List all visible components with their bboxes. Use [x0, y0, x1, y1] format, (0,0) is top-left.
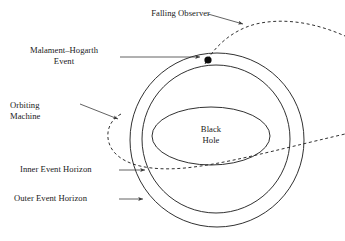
- leader-orbiting-machine: [80, 104, 118, 119]
- leader-falling-observer: [208, 14, 243, 24]
- black-hole-diagram: Falling Observer Malament–Hogarth Event …: [0, 0, 345, 241]
- label-malament-hogarth-event: Malament–Hogarth Event: [12, 45, 116, 67]
- label-outer-event-horizon: Outer Event Horizon: [14, 193, 118, 204]
- label-falling-observer: Falling Observer: [124, 8, 210, 19]
- label-black-hole: Black Hole: [181, 124, 241, 146]
- label-orbiting-machine: Orbiting Machine: [10, 100, 80, 122]
- malament-hogarth-event-dot: [204, 56, 211, 63]
- falling-observer-trajectory: [205, 21, 345, 64]
- label-inner-event-horizon: Inner Event Horizon: [20, 164, 118, 175]
